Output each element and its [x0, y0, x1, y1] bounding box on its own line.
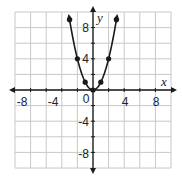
y-tick-label: 4	[82, 52, 89, 66]
x-tick-label: 8	[153, 95, 160, 109]
origin-label: 0	[83, 92, 90, 106]
y-tick-label: 8	[82, 21, 89, 35]
coordinate-plane: -8 -4 0 4 8 8 4 -4 -8 x y	[0, 0, 182, 185]
data-point	[83, 80, 88, 85]
x-tick-label: 4	[122, 95, 129, 109]
y-axis-arrow-down-icon	[90, 168, 96, 174]
data-point	[98, 80, 103, 85]
x-tick-label: -8	[17, 95, 28, 109]
x-axis-arrow-right-icon	[171, 87, 177, 93]
x-axis-label: x	[160, 74, 167, 89]
y-axis-label: y	[95, 10, 103, 25]
x-tick-label: -4	[48, 95, 59, 109]
data-point	[90, 87, 95, 92]
y-tick-label: -8	[78, 147, 89, 161]
x-axis-arrow-left-icon	[9, 87, 15, 93]
tick-labels: -8 -4 0 4 8 8 4 -4 -8 x y	[17, 10, 167, 161]
curve-arrow-icon	[113, 14, 119, 20]
data-point	[75, 56, 80, 61]
y-tick-label: -4	[78, 115, 89, 129]
data-point	[106, 56, 111, 61]
y-axis-arrow-up-icon	[90, 6, 96, 12]
curve-arrow-icon	[67, 14, 73, 20]
